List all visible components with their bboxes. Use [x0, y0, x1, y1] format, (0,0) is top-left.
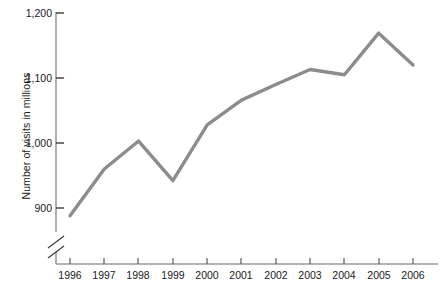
- plot-area: [0, 0, 444, 294]
- axis-break-icon: [48, 236, 64, 248]
- line-chart: Number of visits in millions 1,200 1,100…: [0, 0, 444, 294]
- x-tick-label-2006: 2006: [391, 270, 435, 281]
- data-series-line: [70, 33, 413, 216]
- x-axis-ticks: [70, 258, 413, 264]
